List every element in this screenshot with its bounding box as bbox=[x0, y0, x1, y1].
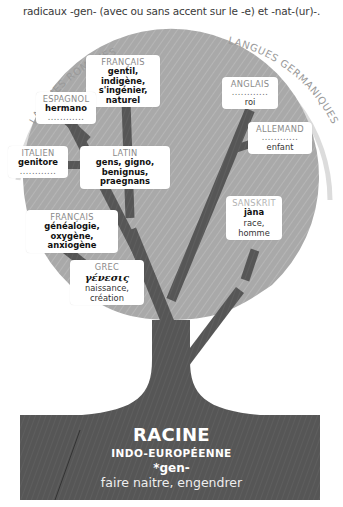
blank-dots: ............ bbox=[250, 134, 310, 142]
root-title: RACINE bbox=[0, 424, 343, 445]
meaning: naissance, création bbox=[72, 283, 142, 303]
word: anxiogène bbox=[28, 241, 116, 251]
label-grec: GREC γένεσις naissance, création bbox=[70, 260, 144, 305]
meaning: enfant bbox=[250, 142, 310, 152]
word: s'ingénier, naturel bbox=[88, 86, 158, 105]
meaning: race, homme bbox=[228, 218, 280, 238]
label-francais-top: FRANÇAIS gentil, indigène, s'ingénier, n… bbox=[86, 55, 160, 107]
root-subtitle: INDO-EUROPÉENNE bbox=[0, 447, 343, 459]
word: gentil, indigène, bbox=[88, 67, 158, 86]
greek-word: γένεσις bbox=[72, 272, 142, 283]
root-form: *gen- bbox=[0, 461, 343, 475]
blank-dots: ............ bbox=[10, 168, 66, 176]
label-sanskrit: SANSKRIT jàna race, homme bbox=[226, 196, 282, 240]
blank-dots: ............ bbox=[38, 114, 94, 122]
meaning: roi bbox=[224, 97, 276, 107]
lang-name: GREC bbox=[72, 262, 142, 272]
label-latin: LATIN gens, gigno, benignus, praegnans bbox=[80, 146, 170, 189]
label-espagnol: ESPAGNOL hermano ............ bbox=[36, 92, 96, 124]
root-meaning: faire naitre, engendrer bbox=[0, 475, 343, 490]
label-francais-bottom: FRANÇAIS généalogie, oxygène, anxiogène bbox=[26, 210, 118, 253]
blank-dots: ............ bbox=[224, 89, 276, 97]
word: benignus, praegnans bbox=[82, 168, 168, 187]
label-italien: ITALIEN genitore ............ bbox=[8, 146, 68, 178]
label-anglais: ANGLAIS ............ roi bbox=[222, 77, 278, 109]
word: jàna bbox=[228, 208, 280, 218]
word: généalogie, oxygène, bbox=[28, 222, 116, 241]
label-allemand: ALLEMAND ............ enfant bbox=[248, 122, 312, 154]
